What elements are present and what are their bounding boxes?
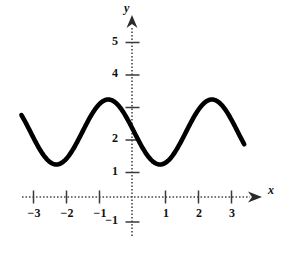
y-axis-label: y: [124, 1, 129, 16]
y-tick-label-4: 4: [96, 66, 118, 81]
y-axis-arrowhead: [127, 15, 138, 28]
x-tick-label-1: 1: [154, 206, 178, 221]
x-tick-label-2: 2: [187, 206, 211, 221]
x-tick-label-3: 3: [220, 206, 244, 221]
x-tick-label--3: −3: [22, 206, 46, 221]
sinusoid-curve: [21, 100, 244, 165]
x-axis-arrowhead: [248, 192, 262, 203]
y-tick-label-2: 2: [96, 131, 118, 146]
y-tick-label-1: 1: [96, 164, 118, 179]
x-tick-label--2: −2: [55, 206, 79, 221]
graph-figure: y x −3 −2 −1 1 2 3 5 4 2 1 −1: [0, 0, 286, 264]
coordinate-plane: [0, 0, 286, 264]
y-tick-label--1: −1: [92, 213, 118, 228]
y-tick-label-5: 5: [96, 34, 118, 49]
x-axis-label: x: [268, 183, 274, 198]
